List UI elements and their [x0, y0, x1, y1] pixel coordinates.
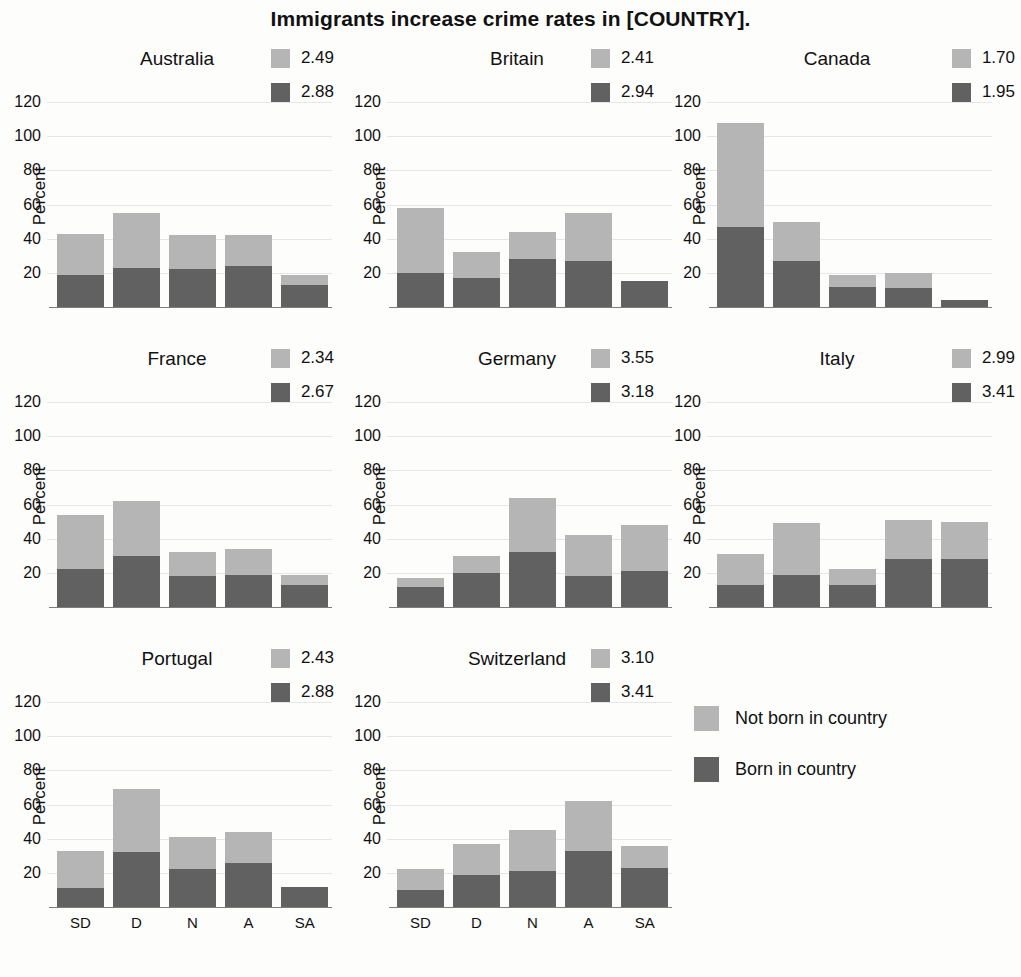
stacked-bar-d[interactable] — [773, 523, 820, 607]
stacked-bar-a[interactable] — [885, 520, 932, 607]
bar-segment-not-born[interactable] — [113, 213, 160, 268]
stacked-bar-sa[interactable] — [281, 887, 328, 907]
bar-segment-born[interactable] — [281, 285, 328, 307]
bar-segment-not-born[interactable] — [453, 844, 500, 875]
bar-segment-not-born[interactable] — [717, 123, 764, 227]
bar-segment-not-born[interactable] — [169, 837, 216, 869]
bar-segment-not-born[interactable] — [453, 252, 500, 278]
stacked-bar-d[interactable] — [453, 252, 500, 307]
bar-segment-born[interactable] — [717, 585, 764, 607]
stacked-bar-a[interactable] — [565, 801, 612, 907]
bar-segment-born[interactable] — [113, 852, 160, 907]
stacked-bar-n[interactable] — [829, 569, 876, 607]
bar-segment-not-born[interactable] — [397, 578, 444, 587]
bar-segment-born[interactable] — [453, 278, 500, 307]
bar-segment-born[interactable] — [57, 275, 104, 307]
stacked-bar-a[interactable] — [225, 832, 272, 907]
bar-segment-not-born[interactable] — [225, 549, 272, 575]
bar-segment-born[interactable] — [773, 261, 820, 307]
stacked-bar-sd[interactable] — [397, 208, 444, 307]
stacked-bar-sa[interactable] — [941, 300, 988, 307]
bar-segment-born[interactable] — [509, 552, 556, 607]
stacked-bar-sd[interactable] — [57, 851, 104, 907]
bar-segment-not-born[interactable] — [885, 273, 932, 288]
bar-segment-born[interactable] — [717, 227, 764, 307]
bar-segment-born[interactable] — [113, 268, 160, 307]
stacked-bar-d[interactable] — [453, 556, 500, 607]
stacked-bar-a[interactable] — [565, 535, 612, 607]
bar-segment-born[interactable] — [829, 287, 876, 307]
stacked-bar-n[interactable] — [169, 837, 216, 907]
bar-segment-not-born[interactable] — [565, 213, 612, 261]
bar-segment-born[interactable] — [225, 575, 272, 607]
bar-segment-not-born[interactable] — [57, 515, 104, 570]
bar-segment-born[interactable] — [565, 851, 612, 907]
bar-segment-not-born[interactable] — [717, 554, 764, 585]
bar-segment-born[interactable] — [397, 273, 444, 307]
bar-segment-born[interactable] — [225, 266, 272, 307]
bar-segment-not-born[interactable] — [565, 535, 612, 576]
bar-segment-born[interactable] — [885, 559, 932, 607]
stacked-bar-d[interactable] — [113, 501, 160, 607]
bar-segment-born[interactable] — [565, 576, 612, 607]
bar-segment-not-born[interactable] — [829, 569, 876, 584]
bar-segment-not-born[interactable] — [397, 869, 444, 889]
bar-segment-not-born[interactable] — [885, 520, 932, 559]
bar-segment-born[interactable] — [113, 556, 160, 607]
bar-segment-born[interactable] — [225, 863, 272, 907]
bar-segment-not-born[interactable] — [113, 789, 160, 852]
stacked-bar-sa[interactable] — [941, 522, 988, 607]
bar-segment-born[interactable] — [397, 890, 444, 907]
stacked-bar-a[interactable] — [565, 213, 612, 307]
bar-segment-not-born[interactable] — [565, 801, 612, 851]
stacked-bar-sa[interactable] — [281, 575, 328, 607]
bar-segment-not-born[interactable] — [281, 575, 328, 585]
stacked-bar-sd[interactable] — [717, 554, 764, 607]
bar-segment-not-born[interactable] — [225, 832, 272, 863]
bar-segment-born[interactable] — [941, 300, 988, 307]
bar-segment-not-born[interactable] — [113, 501, 160, 556]
bar-segment-not-born[interactable] — [169, 235, 216, 269]
bar-segment-born[interactable] — [453, 573, 500, 607]
stacked-bar-n[interactable] — [509, 232, 556, 307]
stacked-bar-sd[interactable] — [57, 515, 104, 607]
bar-segment-not-born[interactable] — [57, 851, 104, 889]
bar-segment-born[interactable] — [509, 259, 556, 307]
bar-segment-not-born[interactable] — [453, 556, 500, 573]
bar-segment-born[interactable] — [57, 569, 104, 607]
stacked-bar-a[interactable] — [225, 235, 272, 307]
stacked-bar-a[interactable] — [225, 549, 272, 607]
bar-segment-born[interactable] — [509, 871, 556, 907]
bar-segment-not-born[interactable] — [281, 275, 328, 285]
stacked-bar-d[interactable] — [773, 222, 820, 307]
bar-segment-born[interactable] — [281, 887, 328, 907]
stacked-bar-d[interactable] — [113, 213, 160, 307]
bar-segment-not-born[interactable] — [773, 222, 820, 261]
bar-segment-born[interactable] — [829, 585, 876, 607]
stacked-bar-sd[interactable] — [57, 234, 104, 307]
stacked-bar-sd[interactable] — [397, 869, 444, 907]
bar-segment-born[interactable] — [397, 587, 444, 607]
bar-segment-born[interactable] — [453, 875, 500, 907]
bar-segment-born[interactable] — [885, 288, 932, 307]
stacked-bar-n[interactable] — [509, 498, 556, 607]
bar-segment-born[interactable] — [169, 869, 216, 907]
stacked-bar-n[interactable] — [169, 235, 216, 307]
bar-segment-not-born[interactable] — [829, 275, 876, 287]
bar-segment-born[interactable] — [281, 585, 328, 607]
stacked-bar-sd[interactable] — [717, 123, 764, 307]
stacked-bar-a[interactable] — [885, 273, 932, 307]
bar-segment-not-born[interactable] — [225, 235, 272, 266]
stacked-bar-n[interactable] — [829, 275, 876, 307]
stacked-bar-n[interactable] — [169, 552, 216, 607]
bar-segment-not-born[interactable] — [773, 523, 820, 574]
bar-segment-born[interactable] — [773, 575, 820, 607]
bar-segment-not-born[interactable] — [509, 232, 556, 259]
bar-segment-born[interactable] — [57, 888, 104, 907]
bar-segment-not-born[interactable] — [941, 522, 988, 560]
bar-segment-born[interactable] — [941, 559, 988, 607]
bar-segment-not-born[interactable] — [397, 208, 444, 273]
bar-segment-not-born[interactable] — [509, 498, 556, 553]
bar-segment-born[interactable] — [169, 269, 216, 307]
bar-segment-born[interactable] — [565, 261, 612, 307]
